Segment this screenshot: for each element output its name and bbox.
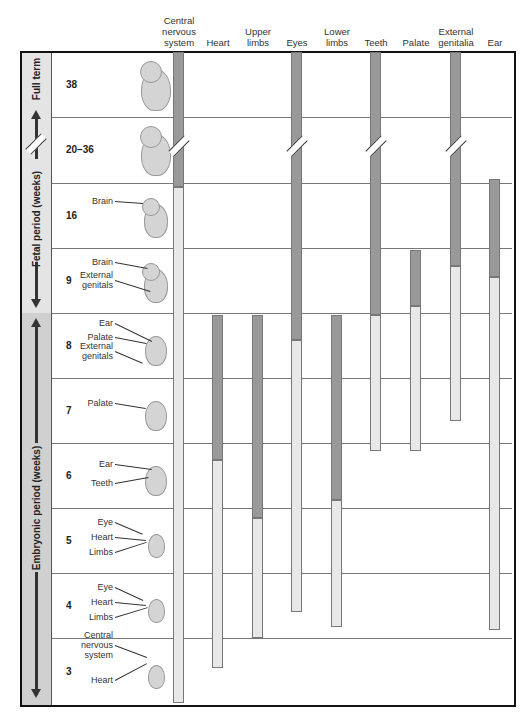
structure-label-line: genitals bbox=[80, 280, 113, 290]
structure-label: Palate bbox=[87, 398, 113, 408]
minor-sensitivity-bar bbox=[489, 277, 500, 630]
major-sensitivity-bar bbox=[291, 52, 302, 340]
week-label: 3 bbox=[66, 666, 72, 677]
major-sensitivity-bar bbox=[370, 52, 381, 315]
structure-label-line: Ear bbox=[99, 459, 113, 469]
structure-label: Heart bbox=[91, 597, 113, 607]
major-sensitivity-bar bbox=[489, 179, 500, 277]
week-label: 7 bbox=[66, 405, 72, 416]
minor-sensitivity-bar bbox=[450, 266, 461, 421]
arrow-down-icon bbox=[31, 299, 41, 308]
structure-label: Limbs bbox=[89, 612, 113, 622]
row-divider bbox=[52, 313, 512, 314]
embryo-head bbox=[140, 61, 162, 83]
embryonic-period-label: Embryonic period (weeks) bbox=[31, 443, 43, 573]
week-label: 8 bbox=[66, 340, 72, 351]
week-label: 20–36 bbox=[66, 144, 94, 155]
week-label: 9 bbox=[66, 275, 72, 286]
structure-label-line: genitals bbox=[80, 351, 113, 361]
arrow-shaft bbox=[35, 572, 38, 690]
column-header-line: Ear bbox=[469, 37, 521, 48]
embryo-illustration bbox=[148, 665, 165, 689]
row-divider bbox=[52, 508, 512, 509]
minor-sensitivity-bar bbox=[212, 460, 223, 668]
structure-label: Heart bbox=[91, 675, 113, 685]
structure-label-line: Eye bbox=[97, 517, 113, 527]
fetal-period-label: Fetal period (weeks) bbox=[31, 159, 43, 279]
chart-frame bbox=[20, 51, 516, 707]
row-divider bbox=[52, 443, 512, 444]
minor-sensitivity-bar bbox=[252, 518, 263, 638]
structure-label: Externalgenitals bbox=[80, 270, 113, 290]
arrow-shaft bbox=[35, 262, 38, 300]
structure-label: Centralnervoussystem bbox=[81, 630, 113, 660]
structure-label-line: nervous bbox=[81, 640, 113, 650]
structure-label-line: Brain bbox=[92, 257, 113, 267]
minor-sensitivity-bar bbox=[370, 315, 381, 451]
major-sensitivity-bar bbox=[450, 52, 461, 266]
structure-label: Eye bbox=[97, 582, 113, 592]
week-label: 38 bbox=[66, 79, 77, 90]
row-divider bbox=[52, 117, 512, 118]
full-term-label: Full term bbox=[31, 49, 43, 109]
structure-label-line: Heart bbox=[91, 532, 113, 542]
week-label: 6 bbox=[66, 470, 72, 481]
strip-divider bbox=[51, 53, 52, 705]
week-label: 16 bbox=[66, 210, 77, 221]
embryo-illustration bbox=[145, 401, 167, 431]
structure-label: Teeth bbox=[91, 478, 113, 488]
major-sensitivity-bar bbox=[173, 52, 184, 187]
structure-label: Brain bbox=[92, 196, 113, 206]
embryo-head bbox=[142, 198, 160, 216]
structure-label: Limbs bbox=[89, 547, 113, 557]
structure-label-line: Central bbox=[81, 630, 113, 640]
structure-label-line: Heart bbox=[91, 675, 113, 685]
structure-label-line: Ear bbox=[99, 318, 113, 328]
structure-label-line: Heart bbox=[91, 597, 113, 607]
embryo-illustration bbox=[145, 466, 167, 496]
structure-label-line: system bbox=[81, 650, 113, 660]
structure-label-line: Brain bbox=[92, 196, 113, 206]
structure-label-line: External bbox=[80, 270, 113, 280]
structure-label: Ear bbox=[99, 459, 113, 469]
minor-sensitivity-bar bbox=[173, 187, 184, 703]
major-sensitivity-bar bbox=[252, 315, 263, 518]
row-divider bbox=[52, 573, 512, 574]
column-header: Ear bbox=[469, 2, 521, 48]
embryo-head bbox=[140, 126, 162, 148]
structure-label: Brain bbox=[92, 257, 113, 267]
structure-label: Eye bbox=[97, 517, 113, 527]
structure-label-line: Teeth bbox=[91, 478, 113, 488]
embryo-illustration bbox=[148, 534, 165, 558]
week-label: 5 bbox=[66, 535, 72, 546]
major-sensitivity-bar bbox=[410, 250, 421, 306]
structure-label-line: Limbs bbox=[89, 612, 113, 622]
structure-label: Externalgenitals bbox=[80, 341, 113, 361]
structure-label: Heart bbox=[91, 532, 113, 542]
major-sensitivity-bar bbox=[331, 315, 342, 500]
week-label: 4 bbox=[66, 600, 72, 611]
minor-sensitivity-bar bbox=[331, 500, 342, 627]
row-divider bbox=[52, 378, 512, 379]
minor-sensitivity-bar bbox=[291, 340, 302, 612]
structure-label-line: Limbs bbox=[89, 547, 113, 557]
row-divider bbox=[52, 638, 512, 639]
arrow-shaft bbox=[35, 326, 38, 446]
row-divider bbox=[52, 183, 512, 184]
arrow-down-icon bbox=[31, 689, 41, 698]
structure-label-line: Palate bbox=[87, 398, 113, 408]
embryo-illustration bbox=[148, 599, 165, 623]
minor-sensitivity-bar bbox=[410, 306, 421, 451]
structure-label-line: External bbox=[80, 341, 113, 351]
structure-label-line: Eye bbox=[97, 582, 113, 592]
structure-label: Ear bbox=[99, 318, 113, 328]
embryo-head bbox=[142, 263, 160, 281]
row-divider bbox=[52, 248, 512, 249]
major-sensitivity-bar bbox=[212, 315, 223, 460]
